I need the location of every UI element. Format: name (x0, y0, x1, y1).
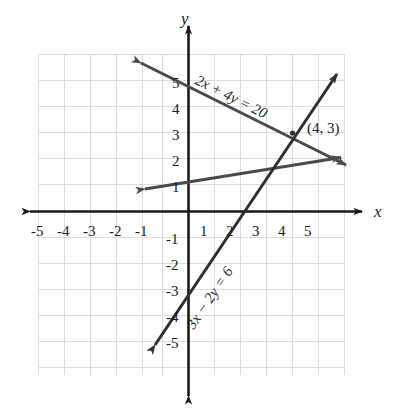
y-tick-label: 2 (172, 154, 180, 169)
y-tick-label: -5 (166, 336, 179, 351)
y-tick-label: 5 (172, 76, 180, 91)
x-axis-label: x (374, 203, 382, 220)
x-tick-label: 4 (278, 224, 286, 239)
intersection-point-label: (4, 3) (307, 121, 340, 136)
x-tick-label: 2 (226, 224, 234, 239)
y-tick-label: 4 (172, 102, 180, 117)
y-tick-label: 3 (172, 128, 180, 143)
y-tick-label: -2 (166, 258, 179, 273)
graph-canvas (0, 0, 399, 415)
x-tick-label: 5 (304, 224, 312, 239)
coordinate-plane-figure: y x -5 -4 -3 -2 -1 1 2 3 4 5 5 4 3 2 1 -… (0, 0, 399, 415)
y-axis-label: y (181, 10, 189, 27)
x-tick-label: 3 (252, 224, 260, 239)
x-tick-label: -1 (135, 224, 148, 239)
x-tick-label: -4 (57, 224, 70, 239)
x-tick-label: -3 (83, 224, 96, 239)
x-tick-label: 1 (200, 224, 208, 239)
y-tick-label: 1 (172, 180, 180, 195)
x-tick-label: -2 (109, 224, 122, 239)
x-tick-label: -5 (31, 224, 44, 239)
y-tick-label: -1 (166, 232, 179, 247)
intersection-dot (290, 130, 295, 135)
y-tick-label: -4 (166, 310, 179, 325)
y-tick-label: -3 (166, 284, 179, 299)
